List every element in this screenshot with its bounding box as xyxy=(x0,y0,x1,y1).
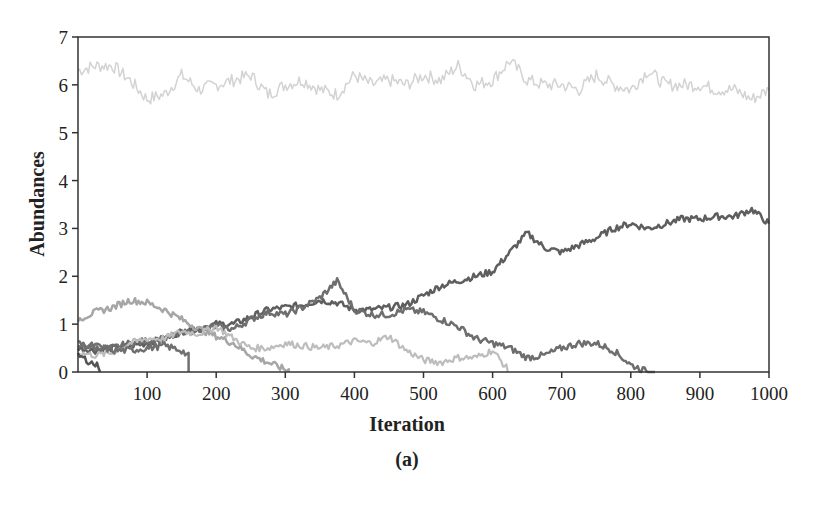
x-tick-label: 400 xyxy=(340,383,369,404)
x-tick-label: 900 xyxy=(686,383,715,404)
x-tick-label: 200 xyxy=(202,383,231,404)
line-chart: 01234567 1002003004005006007008009001000… xyxy=(0,0,815,519)
series-species-1 xyxy=(78,60,769,104)
y-axis-title: Abundances xyxy=(26,151,48,257)
series-species-3 xyxy=(78,278,655,372)
y-tick-label: 0 xyxy=(59,362,69,383)
x-tick-label: 300 xyxy=(271,383,300,404)
x-tick-label: 1000 xyxy=(750,383,788,404)
y-tick-label: 5 xyxy=(59,123,69,144)
x-tick-label: 500 xyxy=(409,383,438,404)
series-species-5 xyxy=(78,326,508,372)
y-tick-label: 2 xyxy=(59,266,69,287)
y-tick-label: 7 xyxy=(59,27,69,48)
x-tick-label: 700 xyxy=(547,383,576,404)
x-axis: 1002003004005006007008009001000 xyxy=(133,372,788,404)
y-tick-label: 6 xyxy=(59,75,69,96)
x-tick-label: 800 xyxy=(617,383,646,404)
plot-frame xyxy=(78,37,769,372)
y-tick-label: 3 xyxy=(59,218,69,239)
series-layer xyxy=(78,60,769,372)
y-axis: 01234567 xyxy=(59,27,79,383)
figure-caption: (a) xyxy=(395,448,418,471)
x-tick-label: 600 xyxy=(478,383,507,404)
y-tick-label: 1 xyxy=(59,314,69,335)
y-tick-label: 4 xyxy=(59,171,69,192)
x-axis-title: Iteration xyxy=(369,413,445,435)
x-tick-label: 100 xyxy=(133,383,162,404)
